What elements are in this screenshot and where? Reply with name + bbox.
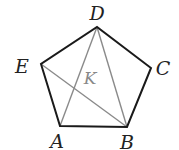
vertex-label-b: B (119, 131, 134, 150)
vertex-label-a: A (48, 130, 64, 150)
vertex-label-e: E (14, 55, 29, 77)
point-label-k: K (83, 68, 98, 88)
pentagon-diagram: D E C A B K (0, 0, 179, 150)
vertex-label-c: C (156, 57, 171, 79)
diagonal-db (97, 27, 127, 127)
vertex-label-d: D (88, 2, 104, 24)
